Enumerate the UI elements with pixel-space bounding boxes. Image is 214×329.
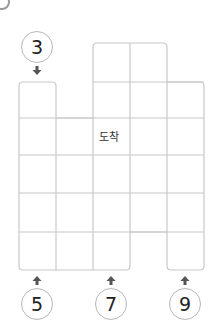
start-circle-bottom-1[interactable]: 5 bbox=[21, 288, 53, 320]
goal-label: 도착 bbox=[99, 128, 119, 144]
start-circle-top[interactable]: 3 bbox=[21, 31, 53, 63]
arrow-up-icon bbox=[33, 276, 42, 285]
arrow-down-icon bbox=[33, 66, 42, 75]
start-circle-bottom-3[interactable]: 9 bbox=[169, 288, 201, 320]
start-circle-bottom-2[interactable]: 7 bbox=[95, 288, 127, 320]
maze-outline bbox=[19, 43, 204, 270]
arrow-up-icon bbox=[181, 276, 190, 285]
arrow-up-icon bbox=[107, 276, 116, 285]
